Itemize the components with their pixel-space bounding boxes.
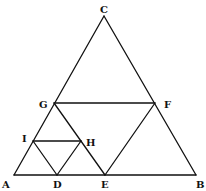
vertex-label-i: I: [22, 133, 27, 144]
vertex-label-d: D: [53, 179, 62, 190]
geometry-diagram: ABCDEFGHI: [0, 0, 206, 191]
vertex-label-a: A: [1, 179, 10, 190]
vertex-label-h: H: [86, 137, 95, 148]
vertex-label-e: E: [101, 179, 109, 190]
segment-ge: [54, 103, 105, 175]
vertex-labels: ABCDEFGHI: [1, 4, 204, 190]
segment-ca: [14, 16, 104, 175]
vertex-label-g: G: [39, 99, 48, 110]
vertex-label-b: B: [196, 179, 204, 190]
segment-dh: [57, 141, 81, 175]
vertex-label-f: F: [164, 99, 171, 110]
segment-bc: [104, 16, 196, 175]
segment-id: [33, 141, 57, 175]
segment-ef: [105, 103, 155, 175]
vertex-label-c: C: [100, 4, 108, 15]
triangle-segments: [14, 16, 196, 175]
